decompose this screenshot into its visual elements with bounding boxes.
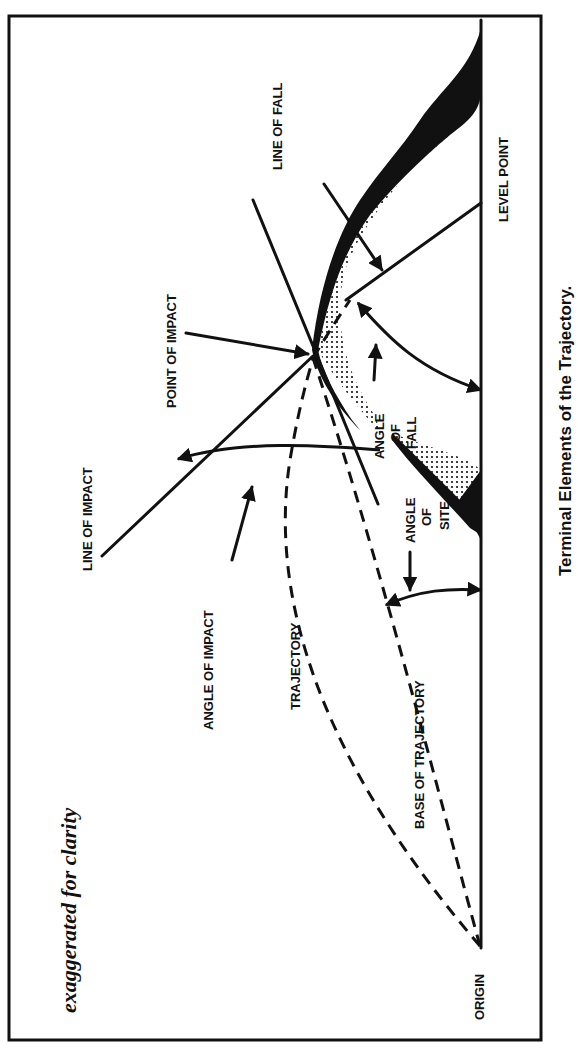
label-angle-of-fall-1: ANGLE [372,413,387,459]
label-angle-of-site-2: OF [419,508,434,526]
label-origin: ORIGIN [472,974,487,1020]
angle-of-impact-pointer [232,487,252,560]
note-exaggerated: exaggerated for clarity [56,807,81,1013]
angle-of-fall-pointer [374,345,376,380]
angle-of-site-arc [386,589,481,605]
label-level-point: LEVEL POINT [496,137,511,222]
label-line-of-impact: LINE OF IMPACT [80,467,95,571]
trajectory-diagram: LINE OF FALL LEVEL POINT POINT OF IMPACT… [0,0,578,1048]
label-trajectory: TRAJECTORY [288,622,303,710]
label-angle-of-impact: ANGLE OF IMPACT [201,610,216,730]
label-angle-of-fall-2: OF [388,424,403,442]
label-line-of-fall: LINE OF FALL [270,83,285,170]
label-base-of-trajectory: BASE OF TRAJECTORY [412,680,427,829]
point-of-impact-pointer [186,333,308,354]
label-angle-of-fall-3: FALL [404,416,419,449]
label-angle-of-site-1: ANGLE [403,497,418,543]
terrain [312,28,481,540]
label-angle-of-site-3: SITE [437,501,452,530]
line-of-impact [102,356,313,556]
figure-caption: Terminal Elements of the Trajectory. [556,286,575,576]
label-point-of-impact: POINT OF IMPACT [164,294,179,408]
